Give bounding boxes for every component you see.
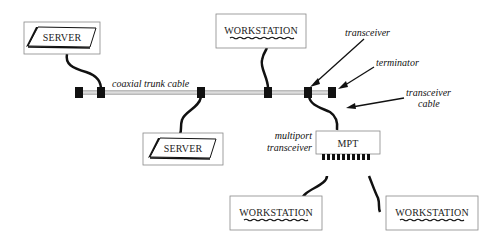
- workstation-bottom-right-label: WORKSTATION: [395, 207, 469, 218]
- terminator-left-icon: [75, 87, 83, 98]
- transceiver-cable-annotation-2: cable: [418, 98, 440, 109]
- transceiver-mpt-icon: [304, 87, 312, 98]
- terminator-annotation: terminator: [376, 57, 419, 68]
- transceiver-cable-annotation-1: transceiver: [406, 87, 451, 98]
- server-top-label: SERVER: [43, 32, 82, 43]
- coaxial-trunk-cable: [79, 91, 333, 94]
- transceiver-workstation-top-icon: [264, 87, 272, 98]
- trunk-label: coaxial trunk cable: [112, 78, 190, 89]
- arrowhead-icon: [346, 103, 356, 109]
- workstation-top[interactable]: WORKSTATION: [216, 14, 306, 48]
- mpt-box[interactable]: MPT: [316, 131, 380, 160]
- transceiver-annotation: transceiver: [345, 27, 390, 38]
- workstation-bottom-left-label: WORKSTATION: [239, 207, 313, 218]
- drop-cables: [67, 48, 380, 212]
- server-bottom[interactable]: SERVER: [143, 133, 223, 165]
- workstation-top-label: WORKSTATION: [224, 25, 298, 36]
- server-bottom-label: SERVER: [164, 143, 203, 154]
- arrowhead-icon: [338, 81, 348, 89]
- mpt-annotation-2: transceiver: [267, 142, 312, 153]
- server-top[interactable]: SERVER: [24, 22, 100, 54]
- mpt-ports-icon: [322, 154, 370, 160]
- terminator-right-icon: [328, 87, 336, 98]
- transceiver-server-top-icon: [97, 87, 105, 98]
- transceiver-server-bottom-icon: [197, 87, 205, 98]
- mpt-label: MPT: [337, 138, 358, 149]
- workstation-bottom-right[interactable]: WORKSTATION: [386, 196, 478, 230]
- workstation-bottom-left[interactable]: WORKSTATION: [230, 196, 322, 230]
- network-diagram: SERVER coaxial trunk cable SERVER WORKST…: [0, 0, 500, 242]
- mpt-annotation-1: multiport: [275, 130, 312, 141]
